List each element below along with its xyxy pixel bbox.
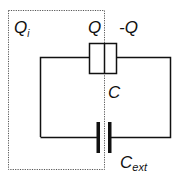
wire-left-top [41,58,90,138]
label-capacitor-c: C [108,83,121,102]
capacitor-ext-plate-left [97,122,101,153]
label-plate-q: Q [88,18,101,37]
capacitor-c-box [90,44,117,74]
label-capacitor-ext: Cext [120,153,148,173]
label-qi: Qi [14,18,30,39]
label-plate-neg-q: -Q [119,18,138,37]
circuit-diagram: Qi Q -Q C Cext [0,0,180,180]
capacitor-ext-plate-right [108,122,112,153]
